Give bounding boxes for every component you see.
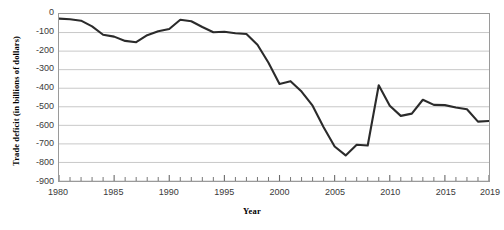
- y-axis-tick-label: -200: [10, 46, 54, 55]
- y-axis-tick-label: -700: [10, 139, 54, 148]
- y-axis-tick-label: -900: [10, 177, 54, 186]
- x-axis-tick-label: 1980: [38, 187, 78, 197]
- y-axis-tick-label: -600: [10, 121, 54, 130]
- x-axis-tick-label: 2005: [315, 187, 355, 197]
- x-axis-tick-label: 2010: [370, 187, 410, 197]
- x-axis-tick-label: 1985: [93, 187, 133, 197]
- x-axis-tick-label: 1995: [204, 187, 244, 197]
- trade-deficit-line-chart: Trade deficit (in billions of dollars) 0…: [0, 0, 504, 230]
- y-axis-tick-label: -500: [10, 102, 54, 111]
- y-axis-tick-label: -100: [10, 27, 54, 36]
- x-axis-tick-label: 2015: [426, 187, 466, 197]
- y-axis-tick-label: -800: [10, 158, 54, 167]
- plot-svg: [59, 14, 489, 181]
- x-axis-tick-label: 1990: [149, 187, 189, 197]
- x-axis-tick-label: 2019: [470, 187, 504, 197]
- x-axis-label: Year: [0, 206, 504, 216]
- y-axis-tick-label: -300: [10, 64, 54, 73]
- y-axis-tick-label: 0: [10, 8, 54, 17]
- gridlines: [59, 33, 489, 181]
- y-axis-tick-label: -400: [10, 83, 54, 92]
- trade-deficit-series-line: [59, 19, 489, 156]
- plot-area: [58, 13, 490, 182]
- x-axis-tick-label: 2000: [260, 187, 300, 197]
- x-axis-minor-ticks: [59, 175, 489, 181]
